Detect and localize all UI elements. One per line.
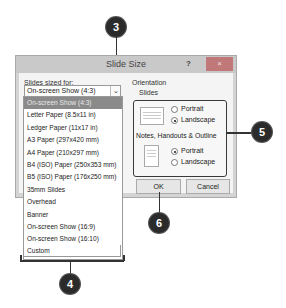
- notes-handouts-outline-label: Notes, Handouts & Outline: [136, 132, 216, 139]
- callout-4-leader: [70, 260, 72, 275]
- dropdown-option[interactable]: Custom: [23, 245, 121, 257]
- callout-4-bracket-right: [123, 255, 125, 261]
- dropdown-option[interactable]: Overhead: [24, 196, 122, 208]
- notes-portrait-label: Portrait: [181, 147, 204, 154]
- notes-portrait-radio[interactable]: [171, 148, 178, 155]
- slides-sized-for-dropdown-list[interactable]: On-screen Show (4:3) Letter Paper (8.5x1…: [23, 96, 123, 260]
- callout-6: 6: [149, 213, 169, 233]
- dialog-title: Slide Size: [16, 59, 236, 69]
- dropdown-option[interactable]: Ledger Paper (11x17 in): [24, 122, 122, 134]
- slides-portrait-label: Portrait: [181, 105, 204, 112]
- orientation-label: Orientation: [132, 79, 166, 86]
- dropdown-option[interactable]: 35mm Slides: [24, 184, 122, 196]
- dropdown-option[interactable]: B4 (ISO) Paper (250x353 mm): [24, 159, 122, 171]
- close-button[interactable]: ×: [206, 57, 233, 71]
- title-bar: Slide Size ? ×: [16, 56, 236, 73]
- slides-landscape-radio[interactable]: [171, 117, 178, 124]
- dropdown-option[interactable]: B5 (ISO) Paper (176x250 mm): [24, 171, 122, 183]
- notes-landscape-label: Landscape: [181, 158, 215, 165]
- slides-portrait-radio[interactable]: [171, 106, 178, 113]
- chevron-down-icon[interactable]: ⌄: [110, 86, 120, 96]
- dropdown-option[interactable]: A4 Paper (210x297 mm): [24, 147, 122, 159]
- notes-landscape-radio[interactable]: [171, 159, 178, 166]
- help-button[interactable]: ?: [186, 59, 191, 68]
- callout-4-bracket-left: [20, 255, 22, 261]
- callout-3: 3: [106, 17, 126, 37]
- orientation-group: Portrait Landscape Notes, Handouts & Out…: [133, 100, 227, 177]
- dropdown-option[interactable]: Banner: [24, 209, 122, 221]
- callout-5: 5: [252, 122, 272, 142]
- slides-landscape-label: Landscape: [181, 116, 215, 123]
- cancel-button[interactable]: Cancel: [186, 179, 230, 194]
- callout-4-bracket: [20, 260, 124, 262]
- callout-5-leader: [226, 132, 252, 134]
- dropdown-option[interactable]: Letter Paper (8.5x11 in): [24, 109, 122, 121]
- dropdown-option[interactable]: On-screen Show (16:10): [24, 233, 122, 245]
- callout-6-leader: [159, 192, 161, 214]
- portrait-page-icon: [144, 145, 159, 167]
- dropdown-option[interactable]: On-screen Show (16:9): [24, 221, 122, 233]
- dropdown-option[interactable]: On-screen Show (4:3): [24, 97, 122, 109]
- slides-label: Slides: [139, 89, 158, 96]
- landscape-page-icon: [140, 107, 164, 125]
- dropdown-option[interactable]: A3 Paper (297x420 mm): [24, 134, 122, 146]
- combo-value: On-screen Show (4:3): [27, 87, 95, 94]
- callout-4: 4: [60, 274, 80, 294]
